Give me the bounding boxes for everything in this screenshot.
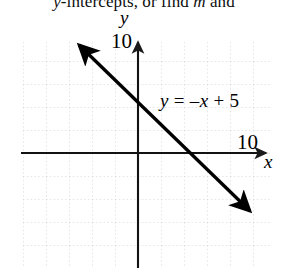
equation-constant: + 5 (208, 90, 239, 111)
y-axis-label: y (120, 8, 128, 27)
y-axis-tick-label-10: 10 (111, 31, 132, 52)
x-axis-label: x (264, 152, 272, 171)
x-axis-tick-label-10: 10 (237, 132, 258, 153)
equation-label: y = –x + 5 (160, 91, 239, 110)
equation-lhs: y (160, 90, 169, 111)
equation-equals: = (169, 90, 190, 111)
figure-graph-linear-equation: y-intercepts, or find m and (0, 0, 288, 271)
equation-sign: – (190, 90, 200, 111)
